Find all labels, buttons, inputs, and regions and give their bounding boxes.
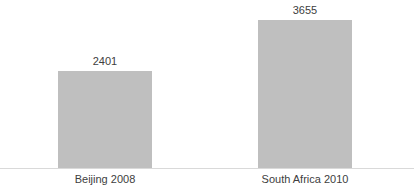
bar-south-africa-2010 (258, 20, 352, 169)
bar-value-label: 3655 (258, 4, 352, 16)
bar-chart: SOUTH AFRICA 2010 2401 3655 Beijing 2008… (0, 0, 414, 189)
x-axis-tick-label-beijing-2008: Beijing 2008 (58, 173, 152, 185)
bar-group-beijing-2008: 2401 (58, 71, 152, 169)
bar-beijing-2008 (58, 71, 152, 169)
plot-area: 2401 3655 (0, 0, 414, 169)
x-axis-tick-label-south-africa-2010: South Africa 2010 (258, 173, 352, 185)
bar-value-label: 2401 (58, 55, 152, 67)
x-axis-line (0, 168, 414, 169)
bar-group-south-africa-2010: 3655 (258, 20, 352, 169)
